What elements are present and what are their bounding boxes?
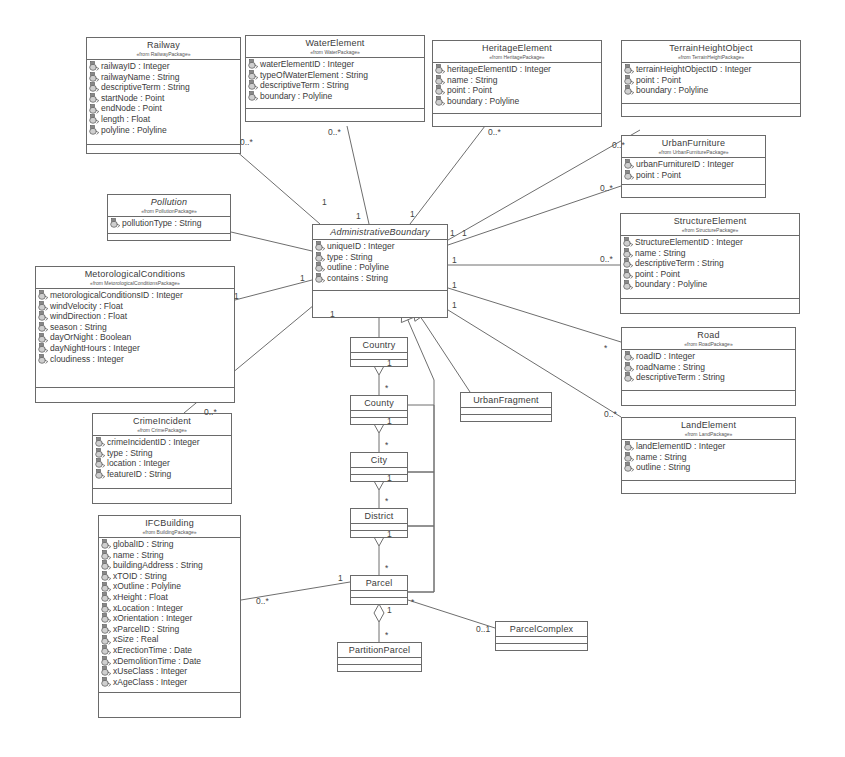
attribute-text: railwayID : Integer <box>101 61 170 72</box>
attribute-icon <box>38 333 49 343</box>
association-road-administrativeboundary <box>448 288 621 342</box>
class-header: Road«from RoadPackage» <box>622 328 795 350</box>
class-parcelcomplex[interactable]: ParcelComplex <box>495 621 588 651</box>
class-attribute: xUseClass : Integer <box>101 666 238 677</box>
class-attribute: xOutline : Polyline <box>101 581 238 592</box>
operation-compartment <box>99 692 240 717</box>
attribute-text: windDirection : Float <box>50 311 127 322</box>
class-name: PartitionParcel <box>340 645 419 656</box>
class-heritageelement[interactable]: HeritageElement«from HeritagePackage»her… <box>432 40 602 127</box>
multiplicity-label: * <box>385 564 388 573</box>
class-attribute: type : String <box>95 448 229 459</box>
attribute-icon <box>624 159 635 169</box>
class-name: County <box>353 398 405 409</box>
operation-compartment <box>461 414 551 421</box>
attribute-compartment: heritageElementID : Integername : String… <box>433 63 601 113</box>
class-administrativeboundary[interactable]: AdministrativeBoundaryuniqueID : Integer… <box>312 224 448 318</box>
class-urbanfurniture[interactable]: UrbanFurniture«from UrbanFurniturePackag… <box>621 135 766 198</box>
multiplicity-label: * <box>385 441 388 450</box>
class-terrainheightobject[interactable]: TerrainHeightObject«from TerrainHeightPa… <box>621 40 801 117</box>
class-header: UrbanFragment <box>461 393 551 408</box>
attribute-icon <box>101 624 112 634</box>
operation-compartment <box>93 488 231 503</box>
class-header: CrimeIncident«from CrimePackage» <box>93 414 231 436</box>
class-crimeincident[interactable]: CrimeIncident«from CrimePackage»crimeInc… <box>92 413 232 504</box>
class-structureelement[interactable]: StructureElement«from StructurePackage»S… <box>620 213 800 314</box>
attribute-compartment: metorologicalConditionsID : IntegerwindV… <box>36 289 234 387</box>
attribute-text: point : Point <box>447 85 492 96</box>
class-parcel[interactable]: Parcel <box>350 575 408 605</box>
attribute-icon <box>624 441 635 451</box>
class-name: District <box>353 511 405 522</box>
class-attribute: outline : Polyline <box>315 262 445 273</box>
attribute-text: waterElementID : Integer <box>260 59 354 70</box>
attribute-text: featureID : String <box>107 469 171 480</box>
class-attribute: pollutionType : String <box>110 218 228 229</box>
class-ifcbuilding[interactable]: IFCBuilding«from BuildingPackage»globalI… <box>98 515 241 718</box>
attribute-text: xHeight : Float <box>113 592 168 603</box>
class-railway[interactable]: Railway«from RailwayPackage»railwayID : … <box>86 37 241 154</box>
class-attribute: type : String <box>315 252 445 263</box>
operation-compartment <box>433 113 601 126</box>
attribute-icon <box>624 351 635 361</box>
generalization-line <box>424 322 470 392</box>
class-name: Railway <box>89 40 238 51</box>
class-attribute: buildingAddress : String <box>101 560 238 571</box>
class-attribute: name : String <box>623 248 797 259</box>
class-attribute: point : Point <box>435 85 599 96</box>
aggregation-diamond-icon <box>374 604 384 622</box>
class-pollution[interactable]: Pollution«from PollutionPackage»pollutio… <box>107 194 231 241</box>
class-attribute: landElementID : Integer <box>624 441 793 452</box>
class-attribute: point : Point <box>624 75 798 86</box>
class-name: StructureElement <box>623 216 797 227</box>
class-road[interactable]: Road«from RoadPackage»roadID : Integerro… <box>621 327 796 406</box>
attribute-icon <box>89 93 100 103</box>
class-waterelement[interactable]: WaterElement«from WaterPackage»waterElem… <box>245 35 425 122</box>
attribute-text: descriptiveTerm : String <box>635 258 724 269</box>
class-attribute: startNode : Point <box>89 93 238 104</box>
class-city[interactable]: City <box>350 452 408 482</box>
class-attribute: waterElementID : Integer <box>248 59 422 70</box>
attribute-text: contains : String <box>327 273 388 284</box>
class-attribute: point : Point <box>624 170 763 181</box>
operation-compartment <box>351 530 407 537</box>
class-attribute: crimeIncidentID : Integer <box>95 437 229 448</box>
class-header: IFCBuilding«from BuildingPackage» <box>99 516 240 538</box>
attribute-icon <box>315 273 326 283</box>
attribute-text: xTOID : String <box>113 571 167 582</box>
class-country[interactable]: Country <box>350 337 408 367</box>
attribute-icon <box>435 75 446 85</box>
class-package-stereotype: «from LandPackage» <box>624 431 793 438</box>
attribute-text: metorologicalConditionsID : Integer <box>50 290 183 301</box>
multiplicity-label: 1 <box>452 301 457 310</box>
class-attribute: polyline : Polyline <box>89 125 238 136</box>
class-attribute: contains : String <box>315 273 445 284</box>
class-metorologicalconditions[interactable]: MetorologicalConditions«from Metorologic… <box>35 266 235 403</box>
attribute-text: globalID : String <box>113 539 173 550</box>
attribute-text: xAgeClass : Integer <box>113 677 187 688</box>
attribute-icon <box>101 635 112 645</box>
class-header: Railway«from RailwayPackage» <box>87 38 240 60</box>
attribute-icon <box>89 72 100 82</box>
class-district[interactable]: District <box>350 508 408 538</box>
attribute-compartment: roadID : IntegerroadName : Stringdescrip… <box>622 350 795 390</box>
attribute-icon <box>623 248 634 258</box>
association-waterelement-administrativeboundary <box>347 126 369 224</box>
multiplicity-label: 0..1 <box>476 625 490 634</box>
attribute-text: StructureElementID : Integer <box>635 237 743 248</box>
class-package-stereotype: «from BuildingPackage» <box>101 529 238 536</box>
class-county[interactable]: County <box>350 395 408 425</box>
class-partitionparcel[interactable]: PartitionParcel <box>337 642 422 672</box>
attribute-icon <box>38 322 49 332</box>
class-header: HeritageElement«from HeritagePackage» <box>433 41 601 63</box>
attribute-icon <box>315 262 326 272</box>
multiplicity-label: 1 <box>387 417 392 426</box>
attribute-icon <box>623 269 634 279</box>
class-header: PartitionParcel <box>338 643 421 658</box>
attribute-icon <box>38 290 49 300</box>
attribute-icon <box>101 550 112 560</box>
class-landelement[interactable]: LandElement«from LandPackage»landElement… <box>621 417 796 494</box>
attribute-text: point : Point <box>635 269 680 280</box>
multiplicity-label: 1 <box>450 229 455 238</box>
class-urbanfragment[interactable]: UrbanFragment <box>460 392 552 422</box>
